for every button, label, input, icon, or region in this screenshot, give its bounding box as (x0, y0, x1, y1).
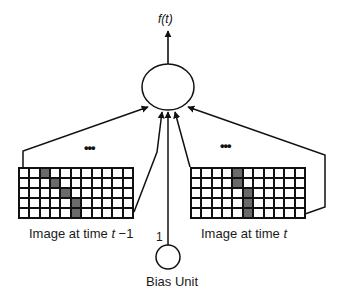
pixel-cell (19, 188, 29, 198)
pixel-cell-shaded (71, 208, 81, 218)
pixel-cell (19, 178, 29, 188)
pixel-cell (274, 168, 284, 178)
pixel-cell (191, 188, 201, 198)
pixel-cell (112, 178, 122, 188)
pixel-cell (60, 198, 70, 208)
pixel-cell (201, 198, 211, 208)
pixel-cell (102, 178, 112, 188)
pixel-cell (81, 198, 91, 208)
pixel-cell (92, 178, 102, 188)
pixel-cell (264, 178, 274, 188)
pixel-cell (232, 208, 242, 218)
pixel-cell (112, 198, 122, 208)
pixel-cell (284, 168, 294, 178)
pixel-cell (253, 168, 263, 178)
pixel-cell (274, 188, 284, 198)
pixel-cell (71, 178, 81, 188)
pixel-cell (92, 198, 102, 208)
pixel-cell-shaded (232, 178, 242, 188)
bias-weight-label: 1 (156, 230, 163, 244)
pixel-cell (102, 198, 112, 208)
pixel-cell (295, 168, 305, 178)
pixel-cell (71, 188, 81, 198)
pixel-cell (19, 198, 29, 208)
pixel-cell (264, 208, 274, 218)
pixel-cell (29, 178, 39, 188)
pixel-cell (92, 168, 102, 178)
pixel-cell (81, 168, 91, 178)
pixel-cell (81, 178, 91, 188)
pixel-cell (222, 208, 232, 218)
pixel-cell (222, 188, 232, 198)
pixel-cell (40, 208, 50, 218)
pixel-cell-shaded (60, 188, 70, 198)
pixel-cell (274, 208, 284, 218)
pixel-cell (50, 188, 60, 198)
image-prev-label: Image at time t −1 (29, 226, 133, 241)
pixel-cell (19, 168, 29, 178)
pixel-cell (284, 178, 294, 188)
pixel-cell (29, 188, 39, 198)
pixel-cell (212, 178, 222, 188)
network-diagram (0, 0, 344, 295)
pixel-cell (222, 168, 232, 178)
image-grid-prev (18, 167, 134, 219)
pixel-cell (264, 198, 274, 208)
pixel-cell (191, 208, 201, 218)
pixel-cell (232, 188, 242, 198)
image-grid-curr (190, 167, 306, 219)
pixel-cell (40, 198, 50, 208)
pixel-cell (212, 208, 222, 218)
bias-unit-circle (156, 245, 180, 269)
left-image-connection (23, 107, 148, 167)
pixel-cell (253, 178, 263, 188)
pixel-cell (112, 188, 122, 198)
pixel-cell (191, 198, 201, 208)
pixel-cell (253, 208, 263, 218)
pixel-cell (60, 178, 70, 188)
pixel-cell (40, 188, 50, 198)
pixel-cell (201, 178, 211, 188)
pixel-cell (284, 188, 294, 198)
pixel-cell (50, 208, 60, 218)
pixel-cell (40, 178, 50, 188)
pixel-cell (201, 168, 211, 178)
pixel-cell (191, 178, 201, 188)
pixel-cell (243, 168, 253, 178)
pixel-cell (295, 178, 305, 188)
pixel-cell (222, 198, 232, 208)
pixel-cell (81, 188, 91, 198)
pixel-cell (19, 208, 29, 218)
right-ellipsis: ••• (220, 138, 231, 153)
pixel-cell (112, 208, 122, 218)
pixel-cell-shaded (243, 208, 253, 218)
pixel-cell (71, 168, 81, 178)
pixel-cell (123, 168, 133, 178)
pixel-cell (102, 208, 112, 218)
pixel-cell (50, 168, 60, 178)
pixel-cell-shaded (71, 198, 81, 208)
pixel-cell (212, 188, 222, 198)
pixel-cell (29, 168, 39, 178)
pixel-cell (253, 188, 263, 198)
pixel-cell (123, 188, 133, 198)
pixel-cell (295, 188, 305, 198)
pixel-cell (274, 198, 284, 208)
pixel-cell (264, 168, 274, 178)
pixel-cell-shaded (50, 178, 60, 188)
pixel-cell (274, 178, 284, 188)
image-curr-label: Image at time t (201, 226, 287, 241)
pixel-cell (112, 168, 122, 178)
pixel-cell (102, 168, 112, 178)
pixel-cell (60, 208, 70, 218)
pixel-cell (295, 208, 305, 218)
left-image-inner-connection (134, 112, 162, 212)
pixel-cell (295, 198, 305, 208)
pixel-cell (212, 198, 222, 208)
pixel-cell (284, 198, 294, 208)
pixel-cell (123, 198, 133, 208)
pixel-cell (92, 208, 102, 218)
pixel-cell (253, 198, 263, 208)
pixel-cell (212, 168, 222, 178)
pixel-cell (201, 188, 211, 198)
